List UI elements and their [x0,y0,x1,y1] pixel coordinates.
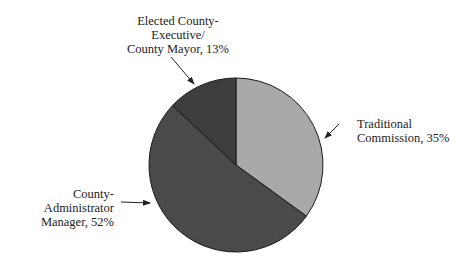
label-line: Traditional [357,117,449,131]
label-traditional-commission: Traditional Commission, 35% [357,117,449,145]
label-line: County- [0,187,114,201]
administrator-pointer-arrow [121,202,150,203]
label-line: Manager, 52% [0,215,114,229]
elected-pointer-arrow [171,57,194,84]
pie-slices [149,78,323,252]
traditional-pointer-arrow [325,124,339,138]
label-line: Executive/ [118,28,238,42]
label-line: Commission, 35% [357,131,449,145]
label-county-administrator: County- Administrator Manager, 52% [0,187,114,229]
label-line: Administrator [0,201,114,215]
label-line: Elected County- [118,14,238,28]
label-line: County Mayor, 13% [118,42,238,56]
label-elected-county-executive: Elected County- Executive/ County Mayor,… [118,14,238,56]
